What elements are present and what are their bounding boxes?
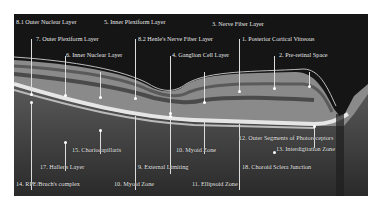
label-henles-nerve-fiber-layer: 8.2 Henle's Nerve Fiber Layer <box>138 35 213 42</box>
leader-line-3 <box>239 39 240 91</box>
label-sattlers-layer: 15. Choriocapillaris <box>72 146 121 153</box>
oct-scan-figure: 8.1 Outer Nuclear Layer 5. Inner Plexifo… <box>14 14 368 196</box>
label-outer-nuclear-layer: 8.1 Outer Nuclear Layer <box>16 18 76 25</box>
label-outer-plexiform-layer: 7. Outer Plexiform Layer <box>36 35 99 42</box>
label-ellipsoid-zone: 10. Myoid Zone <box>176 146 216 153</box>
label-external-limiting: 9. External Limiting <box>138 163 188 170</box>
leader-line-10 <box>135 116 136 190</box>
leader-line-6 <box>100 72 101 97</box>
label-ganglion-cell-layer: 4. Ganglion Cell Layer <box>172 51 229 58</box>
leader-line-4 <box>204 72 205 102</box>
leader-line-8-2 <box>170 56 171 113</box>
marker-17 <box>64 141 67 144</box>
label-choriocapillaris: 14. RPE/Bruch's complex <box>16 180 80 187</box>
leader-line-7 <box>65 56 66 95</box>
marker-7 <box>64 94 67 97</box>
marker-16 <box>99 129 102 132</box>
leader-line-5 <box>135 39 136 98</box>
label-pre-retinal-space: 2. Pre-retinal Space <box>279 51 328 58</box>
label-posterior-cortical-vitreous: 1. Posterior Cortical Vitreous <box>242 35 314 42</box>
marker-1 <box>273 87 276 90</box>
marker-3 <box>238 90 241 93</box>
marker-2 <box>308 85 311 88</box>
marker-9 <box>169 115 172 118</box>
label-nerve-fiber-layer: 3. Nerve Fiber Layer <box>212 20 264 27</box>
label-myoid-zone: 10. Myoid Zone <box>114 180 154 187</box>
label-inner-nuclear-layer: 6. Inner Nuclear Layer <box>66 51 122 58</box>
label-outer-segments-photoreceptors: 11. Ellipsoid Zone <box>192 180 238 187</box>
leader-line-15 <box>31 102 32 190</box>
label-hallers-layer: 17. Haller's Layer <box>40 163 84 170</box>
leader-line-2 <box>309 72 310 86</box>
label-interdigitation-zone: 12. Outer Segments of Photoreceptors <box>239 134 333 141</box>
label-inner-plexiform-layer: 5. Inner Plexiform Layer <box>104 18 166 25</box>
label-choroid-sclera-junction: 18. Choroid Sclera Junction <box>242 163 311 170</box>
marker-8-1 <box>30 93 33 96</box>
marker-5 <box>134 97 137 100</box>
leader-line-1 <box>274 56 275 88</box>
marker-6 <box>99 96 102 99</box>
label-rpe-bruchs-complex: 13. Interdigitation Zone <box>276 145 335 152</box>
marker-13 <box>313 125 316 128</box>
leader-line-8-1 <box>31 39 32 94</box>
marker-15 <box>30 101 33 104</box>
marker-4 <box>203 101 206 104</box>
